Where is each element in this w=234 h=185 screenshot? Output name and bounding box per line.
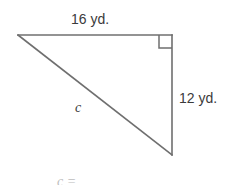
- right-side-length-label: 12 yd.: [179, 91, 217, 105]
- clipped-answer-label: c =: [57, 175, 76, 185]
- triangle-hypotenuse: [18, 35, 172, 155]
- top-side-length-label: 16 yd.: [71, 12, 109, 26]
- right-angle-marker-icon: [159, 35, 172, 48]
- right-triangle-figure: 16 yd. 12 yd. c c =: [0, 0, 234, 185]
- hypotenuse-variable-label: c: [75, 101, 81, 115]
